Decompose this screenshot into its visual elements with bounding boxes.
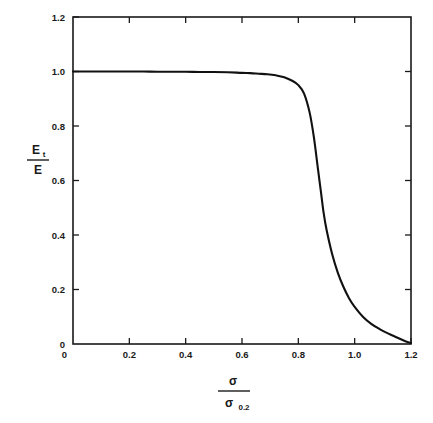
x-tick-label: 0.8 bbox=[292, 349, 305, 360]
y-tick-label: 1.2 bbox=[52, 12, 65, 23]
x-tick-label: 0.4 bbox=[179, 349, 193, 360]
y-axis-label-numerator: E bbox=[32, 143, 40, 157]
y-axis-label-denominator: E bbox=[34, 163, 42, 177]
y-axis-label-numerator-subscript: t bbox=[43, 150, 46, 159]
x-axis-label-numerator: σ bbox=[229, 374, 237, 388]
x-tick-label: 1.2 bbox=[404, 349, 417, 360]
x-axis-label-denominator: σ bbox=[225, 396, 233, 410]
y-tick-label: 0.2 bbox=[52, 284, 65, 295]
x-tick-label: 0 bbox=[62, 349, 67, 360]
x-tick-label: 1.0 bbox=[348, 349, 361, 360]
y-tick-label: 0.4 bbox=[52, 230, 66, 241]
x-axis-label-denominator-subscript: 0.2 bbox=[238, 403, 250, 412]
x-tick-label: 0.6 bbox=[235, 349, 248, 360]
y-tick-label: 1.0 bbox=[52, 66, 65, 77]
y-tick-label: 0.8 bbox=[52, 121, 65, 132]
chart-figure: 00.20.40.60.81.01.2 00.20.40.60.81.01.2 … bbox=[0, 0, 433, 423]
x-tick-label: 0.2 bbox=[123, 349, 136, 360]
y-tick-label: 0.6 bbox=[52, 175, 65, 186]
y-tick-label: 0 bbox=[60, 339, 65, 350]
